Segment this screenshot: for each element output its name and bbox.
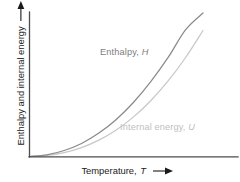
series-label-internal-energy-symbol: U	[188, 122, 195, 132]
series-label-internal-energy: Internal energy, U	[120, 123, 195, 132]
curve-enthalpy	[30, 13, 204, 157]
y-axis-title: Enthalpy and internal energy	[16, 0, 26, 149]
up-arrow-icon	[17, 1, 26, 21]
y-axis-title-text: Enthalpy and internal energy	[15, 26, 26, 145]
x-axis-title-symbol: T	[139, 165, 146, 176]
series-label-enthalpy: Enthalpy, H	[100, 48, 148, 57]
chart-canvas	[0, 0, 240, 182]
x-axis-title-text: Temperature,	[81, 165, 136, 176]
x-axis-title: Temperature, T	[62, 166, 192, 176]
series-label-enthalpy-symbol: H	[142, 47, 149, 57]
right-arrow-icon	[153, 167, 173, 176]
thermodynamics-line-chart: Enthalpy, H Internal energy, U Temperatu…	[0, 0, 240, 182]
series-label-internal-energy-text: Internal energy,	[120, 122, 186, 132]
series-label-enthalpy-text: Enthalpy,	[100, 47, 139, 57]
